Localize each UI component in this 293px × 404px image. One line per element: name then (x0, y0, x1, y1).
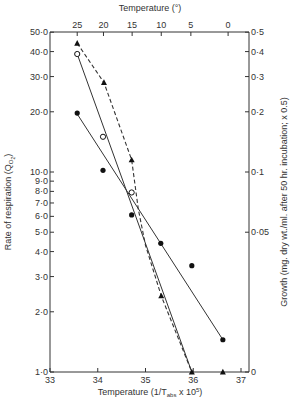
y-tick-label: 1·0 (35, 367, 48, 377)
plot-series (74, 40, 226, 374)
top-tick-label: 15 (127, 20, 137, 30)
y2-tick-label: 0·5 (251, 27, 264, 37)
y2-tick-label: 0·1 (251, 167, 264, 177)
y-axis-title: Rate of respiration (QO2) (3, 154, 16, 251)
plot-axes: 333435363725201510501·02·03·04·05·06·07·… (30, 20, 269, 385)
x-axis-title: Temperature (1/Tabs x 105) (98, 387, 203, 398)
top-tick-label: 25 (72, 20, 82, 30)
y-tick-label: 5·0 (35, 227, 48, 237)
y-tick-label: 4·0 (35, 247, 48, 257)
y-tick-label: 40·0 (30, 47, 48, 57)
filled-circle-marker (100, 168, 105, 173)
y-tick-label: 9·0 (35, 176, 48, 186)
y-tick-label: 7·0 (35, 198, 48, 208)
filled-circle-marker (189, 263, 194, 268)
y-tick-label: 3·0 (35, 272, 48, 282)
y2-tick-label: 0·4 (251, 47, 264, 57)
triangle-marker (129, 157, 135, 163)
y-tick-label: 10·0 (30, 167, 48, 177)
y2-tick-label: 0·3 (251, 72, 264, 82)
filled-circle-marker (129, 212, 134, 217)
filled-circle-marker (220, 337, 225, 342)
open-circle-marker (75, 51, 80, 56)
filled-circle-marker (75, 111, 80, 116)
y-tick-label: 50·0 (30, 27, 48, 37)
y2-tick-label: 0·05 (251, 227, 269, 237)
filled-circle-marker (158, 241, 163, 246)
fit-line (77, 54, 192, 372)
top-tick-label: 10 (156, 20, 166, 30)
fit-line (77, 114, 223, 340)
growth-dashed-curve (77, 43, 192, 372)
y-tick-label: 20·0 (30, 107, 48, 117)
top-tick-label: 5 (188, 20, 193, 30)
x-tick-label: 37 (236, 375, 246, 385)
y-tick-label: 8·0 (35, 186, 48, 196)
x-tick-label: 35 (140, 375, 150, 385)
top-tick-label: 0 (226, 20, 231, 30)
open-circle-marker (129, 190, 134, 195)
y2-tick-label: 0·2 (251, 107, 264, 117)
open-circle-marker (100, 134, 105, 139)
y-tick-label: 2·0 (35, 307, 48, 317)
y-tick-label: 30·0 (30, 72, 48, 82)
x-tick-label: 34 (93, 375, 103, 385)
y2-tick-label: 0 (251, 367, 256, 377)
x-tick-label: 36 (188, 375, 198, 385)
y-tick-label: 6·0 (35, 211, 48, 221)
chart: 333435363725201510501·02·03·04·05·06·07·… (0, 0, 293, 404)
triangle-marker (74, 40, 80, 46)
top-tick-label: 20 (98, 20, 108, 30)
top-axis-title: Temperature (°) (119, 3, 182, 13)
triangle-marker (101, 79, 107, 85)
y2-axis-title: Growth (mg. dry wt./ml. after 50 hr. inc… (279, 97, 289, 307)
